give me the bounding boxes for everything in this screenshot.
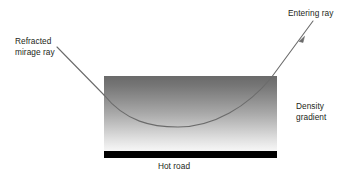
- diagram-canvas: [0, 0, 348, 181]
- label-refracted-mirage-ray: Refracted mirage ray: [15, 36, 55, 58]
- label-hot-road: Hot road: [0, 161, 348, 172]
- hot-road-bar: [104, 151, 277, 158]
- mirage-diagram: Refracted mirage ray Entering ray Densit…: [0, 0, 348, 181]
- refracted-mirage-ray: [57, 47, 104, 95]
- density-gradient-block: [104, 76, 277, 151]
- entering-ray: [271, 21, 313, 78]
- label-density-gradient: Density gradient: [296, 101, 326, 123]
- label-entering-ray: Entering ray: [288, 8, 333, 19]
